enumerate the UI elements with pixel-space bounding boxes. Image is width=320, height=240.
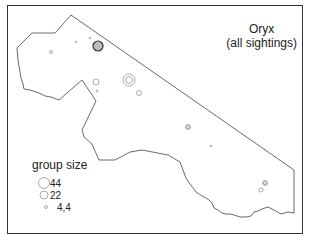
sighting-marker bbox=[123, 74, 135, 86]
sighting-marker bbox=[96, 90, 98, 92]
sighting-marker bbox=[89, 37, 91, 39]
map-title: Oryx (all sightings) bbox=[226, 22, 297, 50]
legend-circle bbox=[45, 206, 48, 209]
sighting-marker bbox=[210, 145, 212, 147]
sighting-marker bbox=[93, 41, 103, 51]
legend-label-4-4: 4,4 bbox=[57, 202, 71, 213]
sighting-marker bbox=[50, 51, 53, 54]
sighting-marker bbox=[75, 41, 77, 43]
sighting-marker bbox=[93, 79, 99, 85]
sighting-marker bbox=[137, 91, 142, 96]
legend-circle bbox=[39, 178, 50, 189]
sighting-marker bbox=[259, 188, 263, 192]
sighting-marker bbox=[126, 77, 133, 84]
legend-label-44: 44 bbox=[50, 178, 61, 189]
legend-title: group size bbox=[32, 158, 87, 172]
legend-label-22: 22 bbox=[50, 190, 61, 201]
title-species: Oryx bbox=[226, 22, 297, 36]
title-subtitle: (all sightings) bbox=[226, 36, 297, 50]
legend-circles bbox=[39, 178, 50, 209]
legend-circle bbox=[40, 191, 48, 199]
sighting-marker bbox=[187, 126, 190, 129]
sighting-marker bbox=[264, 182, 267, 185]
